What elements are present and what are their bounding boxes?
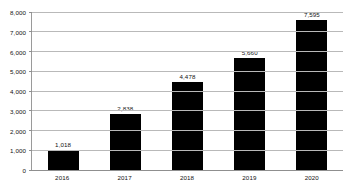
x-axis-tick-label: 2016 xyxy=(31,174,93,188)
y-axis-tick-label: 1,000 xyxy=(10,147,26,154)
bar[interactable] xyxy=(110,114,141,170)
y-axis-tick-mark xyxy=(29,31,32,32)
gridline xyxy=(32,31,343,32)
bar-value-label: 4,478 xyxy=(180,73,196,80)
gridline xyxy=(32,110,343,111)
gridline xyxy=(32,91,343,92)
bar-value-label: 1,018 xyxy=(55,141,71,148)
bar[interactable] xyxy=(296,20,327,170)
y-axis: 01,0002,0003,0004,0005,0006,0007,0008,00… xyxy=(0,12,30,170)
x-axis-tick-label: 2019 xyxy=(218,174,280,188)
gridline xyxy=(32,51,343,52)
gridline xyxy=(32,130,343,131)
y-axis-tick-mark xyxy=(29,170,32,171)
y-axis-tick-label: 8,000 xyxy=(10,9,26,16)
y-axis-tick-label: 0 xyxy=(22,167,26,174)
y-axis-tick-label: 2,000 xyxy=(10,127,26,134)
x-axis: 20162017201820192020 xyxy=(31,174,343,188)
gridline xyxy=(32,71,343,72)
bar-chart: 01,0002,0003,0004,0005,0006,0007,0008,00… xyxy=(0,0,347,196)
y-axis-tick-label: 5,000 xyxy=(10,68,26,75)
x-axis-tick-label: 2018 xyxy=(156,174,218,188)
y-axis-tick-mark xyxy=(29,110,32,111)
x-axis-tick-label: 2017 xyxy=(93,174,155,188)
y-axis-tick-mark xyxy=(29,12,32,13)
gridline xyxy=(32,12,343,13)
bar[interactable] xyxy=(48,150,79,170)
plot-area: 1,0182,8384,4785,6607,595 xyxy=(31,12,343,170)
y-axis-tick-label: 3,000 xyxy=(10,107,26,114)
y-axis-tick-mark xyxy=(29,130,32,131)
bar[interactable] xyxy=(234,58,265,170)
gridline xyxy=(32,170,343,171)
y-axis-tick-label: 6,000 xyxy=(10,48,26,55)
gridline xyxy=(32,150,343,151)
y-axis-tick-mark xyxy=(29,91,32,92)
y-axis-tick-mark xyxy=(29,150,32,151)
y-axis-tick-label: 4,000 xyxy=(10,88,26,95)
y-axis-tick-mark xyxy=(29,51,32,52)
x-axis-tick-label: 2020 xyxy=(281,174,343,188)
bar[interactable] xyxy=(172,82,203,170)
y-axis-tick-label: 7,000 xyxy=(10,28,26,35)
y-axis-tick-mark xyxy=(29,71,32,72)
